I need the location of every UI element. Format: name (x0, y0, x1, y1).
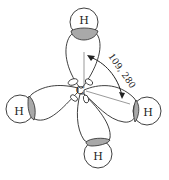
bond-angle-label: 109, 280 (106, 51, 137, 90)
hydrogen-label-bottom: H (93, 150, 103, 163)
methane-orbital-diagram: H H H H C 109, 280 (0, 0, 169, 180)
hydrogen-label-left: H (14, 105, 24, 118)
carbon-label: C (76, 84, 84, 97)
hydrogen-label-right: H (143, 106, 153, 119)
hydrogen-label-top: H (79, 14, 89, 27)
